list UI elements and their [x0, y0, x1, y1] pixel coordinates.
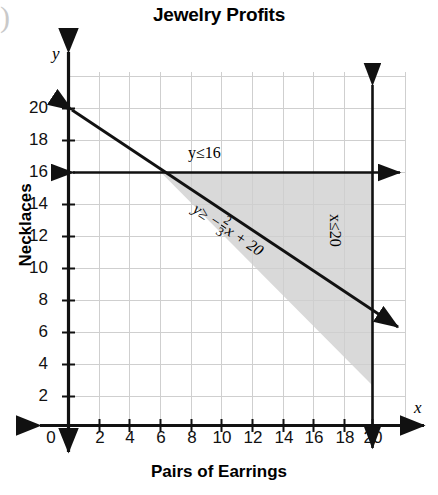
x-tick-label: 4 — [115, 428, 145, 448]
annotation-x-le-20: x≤20 — [326, 214, 344, 247]
x-tick-label: 14 — [269, 428, 299, 448]
y-tick-label: 4 — [14, 354, 48, 374]
x-tick-label: 6 — [146, 428, 176, 448]
x-tick-label: 12 — [238, 428, 268, 448]
shaded-feasible-region — [161, 172, 373, 385]
y-tick-label: 18 — [14, 130, 48, 150]
coordinate-plane — [0, 0, 438, 495]
x-tick-label: 20 — [358, 428, 388, 448]
y-tick-label: 20 — [14, 98, 48, 118]
x-tick-label: 8 — [177, 428, 207, 448]
y-tick-label: 2 — [14, 386, 48, 406]
y-axis-letter: y — [52, 44, 60, 64]
y-tick-label: 6 — [14, 322, 48, 342]
annotation-y-le-16: y≤16 — [188, 144, 221, 162]
x-tick-label: 2 — [85, 428, 115, 448]
x-tick-label: 10 — [207, 428, 237, 448]
figure-canvas: ) Jewelry Profits — [0, 0, 438, 495]
x-axis-title: Pairs of Earrings — [0, 462, 438, 482]
origin-label: 0 — [36, 428, 66, 448]
x-tick-label: 16 — [299, 428, 329, 448]
x-axis-letter: x — [414, 398, 422, 418]
y-axis-title: Necklaces — [16, 155, 36, 295]
x-tick-label: 18 — [330, 428, 360, 448]
